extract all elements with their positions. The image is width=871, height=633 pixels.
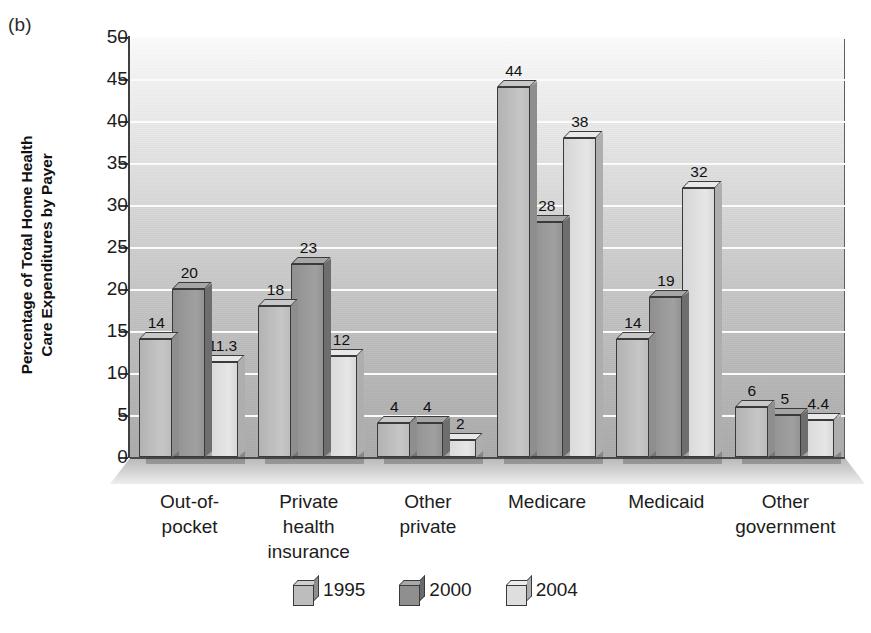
bar-side-face (410, 418, 417, 457)
bar-side-face (715, 182, 722, 457)
bar-side-face (443, 418, 450, 457)
y-axis-tick-label: 15 (107, 320, 128, 342)
x-axis-category-label: Private health insurance (249, 489, 368, 564)
bar-value-label: 18 (267, 281, 284, 299)
bar-1995[interactable]: 6 (735, 407, 768, 457)
chart-legend: 199520002004 (0, 578, 871, 601)
bar-value-label: 44 (505, 62, 522, 80)
legend-label: 2004 (536, 579, 578, 601)
y-axis-tick-label: 35 (107, 152, 128, 174)
bar-side-face (324, 258, 331, 457)
legend-item-1995[interactable]: 1995 (293, 578, 365, 601)
bar-value-label: 19 (657, 272, 674, 290)
bar-value-label: 6 (747, 382, 756, 400)
x-axis-category-label: Out-of- pocket (130, 489, 249, 539)
bar-value-label: 4.4 (807, 395, 829, 413)
bar-value-label: 20 (181, 264, 198, 282)
bar-1995[interactable]: 14 (139, 339, 172, 457)
bar-side-face (834, 414, 841, 457)
y-axis-tick-label: 45 (107, 68, 128, 90)
legend-swatch-face-face (399, 585, 420, 606)
x-axis-category-label: Other government (726, 489, 845, 539)
bar-value-label: 14 (148, 314, 165, 332)
y-axis-ticks: 50454035302520151050 (128, 37, 129, 457)
bar-side-face (291, 300, 298, 457)
bar-value-label: 23 (300, 239, 317, 257)
bar-value-label: 38 (571, 113, 588, 131)
bar-group: 142011.3 (139, 37, 238, 457)
bar-top-face (563, 131, 603, 138)
bar-value-label: 2 (456, 415, 465, 433)
bar-group: 182312 (258, 37, 357, 457)
bar-front-face (497, 87, 530, 457)
legend-label: 2000 (429, 579, 471, 601)
bar-side-face (563, 216, 570, 457)
bar-front-face (735, 407, 768, 457)
bar-top-face (616, 332, 656, 339)
bar-value-label: 14 (624, 314, 641, 332)
bar-top-face (291, 257, 331, 264)
bar-front-face (377, 423, 410, 457)
bar-side-face (768, 401, 775, 457)
bar-side-face (596, 132, 603, 457)
x-axis-category-label: Medicaid (607, 489, 726, 514)
bar-top-face (172, 282, 212, 289)
bar-side-face (238, 356, 245, 457)
bar-side-face (530, 82, 537, 457)
y-axis-tick-label: 40 (107, 110, 128, 132)
y-axis-tick-label: 50 (107, 26, 128, 48)
legend-swatch-face-face (506, 585, 527, 606)
legend-swatch-icon (399, 580, 420, 601)
legend-swatch-face-face (293, 585, 314, 606)
bar-side-face (649, 334, 656, 457)
y-axis-tick-label: 30 (107, 194, 128, 216)
y-axis-tick-label: 5 (117, 404, 128, 426)
bar-top-face (649, 290, 689, 297)
bar-group: 442838 (497, 37, 596, 457)
legend-item-2004[interactable]: 2004 (506, 578, 578, 601)
bar-top-face (682, 181, 722, 188)
bar-value-label: 4 (423, 398, 432, 416)
bar-top-face (735, 400, 775, 407)
x-axis-category-label: Medicare (488, 489, 607, 514)
x-axis-category-label: Other private (368, 489, 487, 539)
legend-item-2000[interactable]: 2000 (399, 578, 471, 601)
bar-side-face (801, 409, 808, 457)
bar-front-face (258, 306, 291, 457)
y-axis-tick-label: 10 (107, 362, 128, 384)
bar-front-face (139, 339, 172, 457)
bar-chart-plot-area: 142011.3182312442442838141932654.4 (130, 37, 845, 457)
bar-side-face (172, 334, 179, 457)
bar-top-face (258, 299, 298, 306)
panel-label: (b) (8, 14, 32, 36)
bar-value-label: 28 (538, 197, 555, 215)
legend-swatch-side-face (527, 575, 532, 601)
bar-group: 141932 (616, 37, 715, 457)
y-axis-title-line-2: Care Expenditures by Payer (37, 153, 57, 356)
bar-group: 654.4 (735, 37, 834, 457)
bar-1995[interactable]: 18 (258, 306, 291, 457)
bar-front-face (616, 339, 649, 457)
bar-value-label: 5 (780, 390, 789, 408)
legend-swatch-side-face (420, 575, 425, 601)
legend-label: 1995 (323, 579, 365, 601)
y-axis-tick-label: 20 (107, 278, 128, 300)
bar-side-face (357, 350, 364, 457)
bar-value-label: 4 (390, 398, 399, 416)
legend-swatch-icon (293, 580, 314, 601)
bar-side-face (205, 283, 212, 457)
x-axis-category-labels: Out-of- pocketPrivate health insuranceOt… (130, 489, 845, 569)
bar-1995[interactable]: 14 (616, 339, 649, 457)
bar-value-label: 32 (690, 163, 707, 181)
bar-group: 442 (377, 37, 476, 457)
bar-value-label: 11.3 (208, 337, 237, 355)
y-axis-tick-label: 25 (107, 236, 128, 258)
legend-swatch-side-face (314, 575, 319, 601)
bar-1995[interactable]: 4 (377, 423, 410, 457)
y-axis-tick-label: 0 (117, 446, 128, 468)
y-axis-title-line-1: Percentage of Total Home Health (17, 136, 37, 375)
y-axis-title: Percentage of Total Home Health Care Exp… (14, 40, 60, 470)
bar-1995[interactable]: 44 (497, 87, 530, 457)
bar-top-face (497, 80, 537, 87)
bar-side-face (682, 292, 689, 457)
